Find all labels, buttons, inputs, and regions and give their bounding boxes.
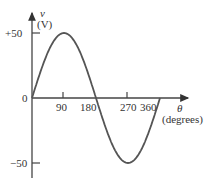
y-tick-label: +50 [5,27,23,39]
y-tick-label: −50 [10,157,28,169]
y-axis-unit: (V) [37,18,53,31]
x-tick-label: 270 [120,101,137,113]
y-tick-label: 0 [22,92,28,104]
x-tick-label: 360 [140,101,157,113]
sine-wave-chart: v (V) +50 0 −50 90 180 270 360 θ (degree… [0,0,212,183]
x-axis-unit: (degrees) [162,113,203,126]
x-tick-label: 90 [56,101,68,113]
x-tick-label: 180 [80,101,97,113]
